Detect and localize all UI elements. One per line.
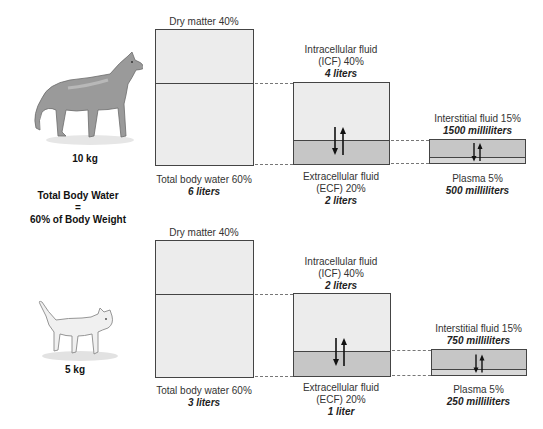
- cat-connector-bottom: [255, 376, 293, 377]
- dog-icf-exchange-arrows-icon: [330, 126, 348, 156]
- cat-connector-ecf-bottom: [392, 375, 431, 376]
- dog-total-water-amount: 6 liters: [145, 186, 263, 198]
- cat-plasma-label: Plasma 5%: [421, 384, 536, 396]
- dog-connector-bottom: [255, 164, 293, 165]
- cat-interstitial-amount: 750 milliliters: [421, 335, 536, 347]
- cat-total-water-label: Total body water 60%: [145, 385, 263, 397]
- cat-total-water-amount: 3 liters: [145, 397, 263, 409]
- cat-icf-exchange-arrows-icon: [331, 337, 349, 367]
- dog-icf-line2: (ICF) 40%: [285, 56, 397, 68]
- cat-interstitial-label: Interstitial fluid 15%: [421, 323, 536, 335]
- dog-total-body-box: [155, 29, 254, 166]
- dog-interstitial-amount: 1500 milliliters: [420, 125, 535, 137]
- dog-ecf-amount: 2 liters: [285, 195, 397, 207]
- cat-ecf-exchange-arrows-icon: [472, 353, 486, 374]
- cat-dry-water-divider: [156, 294, 253, 295]
- cat-icf-amount: 2 liters: [285, 280, 397, 292]
- cat-illustration-icon: [34, 300, 124, 362]
- cat-ecf-line2: (ECF) 20%: [285, 394, 397, 406]
- summary-line2: =: [8, 202, 148, 214]
- dog-dry-matter-label: Dry matter 40%: [155, 16, 253, 28]
- dog-ecf-exchange-arrows-icon: [470, 142, 484, 162]
- dog-connector-top: [255, 83, 293, 84]
- cat-plasma-amount: 250 milliliters: [421, 396, 536, 408]
- cat-icf-line1: Intracellular fluid: [285, 256, 397, 268]
- dog-dry-water-divider: [156, 83, 253, 84]
- dog-ecf-line1: Extracellular fluid: [285, 171, 397, 183]
- dog-interstitial-label: Interstitial fluid 15%: [420, 113, 535, 125]
- cat-dry-matter-label: Dry matter 40%: [155, 227, 253, 239]
- cat-ecf-line1: Extracellular fluid: [285, 382, 397, 394]
- dog-ecf-line2: (ECF) 20%: [285, 183, 397, 195]
- dog-illustration-icon: [28, 48, 143, 148]
- dog-icf-amount: 4 liters: [285, 68, 397, 80]
- dog-total-water-label: Total body water 60%: [145, 174, 263, 186]
- total-body-water-summary: Total Body Water = 60% of Body Weight: [8, 190, 148, 226]
- dog-connector-ecf-bottom: [391, 163, 429, 164]
- dog-weight-label: 10 kg: [55, 153, 115, 164]
- cat-icf-line2: (ICF) 40%: [285, 268, 397, 280]
- summary-line1: Total Body Water: [8, 190, 148, 202]
- cat-connector-ecf-top: [392, 350, 431, 351]
- dog-plasma-label: Plasma 5%: [420, 173, 535, 185]
- dog-connector-ecf-top: [391, 140, 429, 141]
- cat-ecf-amount: 1 liter: [285, 406, 397, 418]
- summary-line3: 60% of Body Weight: [8, 214, 148, 226]
- cat-weight-label: 5 kg: [45, 364, 105, 375]
- dog-plasma-amount: 500 milliliters: [420, 185, 535, 197]
- dog-icf-line1: Intracellular fluid: [285, 44, 397, 56]
- cat-total-body-box: [155, 240, 254, 378]
- cat-connector-top: [255, 294, 293, 295]
